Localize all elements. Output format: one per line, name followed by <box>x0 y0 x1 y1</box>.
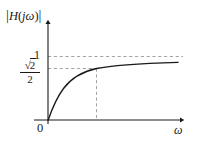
x-axis-label: ω <box>174 124 182 136</box>
magnitude-response-figure: |H(jω)| 1 √2 2 0 ω <box>0 0 200 151</box>
origin-label: 0 <box>37 122 43 135</box>
y-tick-denominator: 2 <box>16 73 44 85</box>
y-axis-label-h: H <box>9 9 18 23</box>
y-tick-label-sqrt2-over-2: √2 2 <box>16 60 44 85</box>
radical-argument: 2 <box>30 58 37 71</box>
y-tick-numerator: √2 <box>16 60 44 72</box>
radical-icon: √2 <box>24 60 37 71</box>
y-axis-label-bar-right: | <box>39 7 42 23</box>
magnitude-response-curve <box>48 62 178 120</box>
y-axis-label: |H(jω)| <box>6 8 42 23</box>
